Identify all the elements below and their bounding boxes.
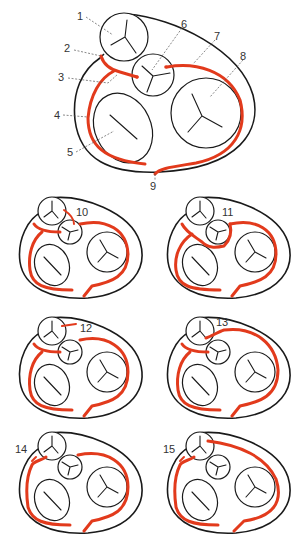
label-9: 9 — [150, 180, 156, 192]
main-diagram: 1 2 3 4 5 6 7 8 9 — [54, 10, 255, 192]
heart-valve-diagram: 1 2 3 4 5 6 7 8 9 10 11 12 — [0, 0, 302, 543]
panel-15: 15 — [163, 432, 290, 533]
panel-14: 14 — [15, 432, 142, 533]
panel-label-12: 12 — [80, 322, 92, 334]
label-2: 2 — [64, 42, 70, 54]
leader-2 — [74, 50, 101, 56]
label-8: 8 — [240, 50, 246, 62]
label-5: 5 — [67, 146, 73, 158]
leader-7 — [193, 40, 215, 64]
label-4: 4 — [54, 109, 60, 121]
panel-label-10: 10 — [76, 206, 88, 218]
label-1: 1 — [77, 10, 83, 22]
artery-ostium-3 — [135, 75, 139, 79]
label-7: 7 — [214, 30, 220, 42]
panel-label-14: 14 — [15, 443, 27, 455]
label-6: 6 — [181, 18, 187, 30]
panel-12: 12 — [20, 317, 142, 418]
label-3: 3 — [58, 71, 64, 83]
panel-13: 13 — [168, 316, 290, 418]
panel-11: 11 — [168, 197, 290, 298]
panel-label-15: 15 — [163, 443, 175, 455]
panel-label-11: 11 — [222, 206, 233, 218]
valve-6 — [132, 54, 174, 96]
panel-label-13: 13 — [216, 316, 228, 328]
valve-8 — [171, 78, 241, 148]
leader-3 — [68, 74, 118, 83]
panel-10: 10 — [20, 197, 142, 298]
artery-ostium-6 — [164, 65, 168, 69]
